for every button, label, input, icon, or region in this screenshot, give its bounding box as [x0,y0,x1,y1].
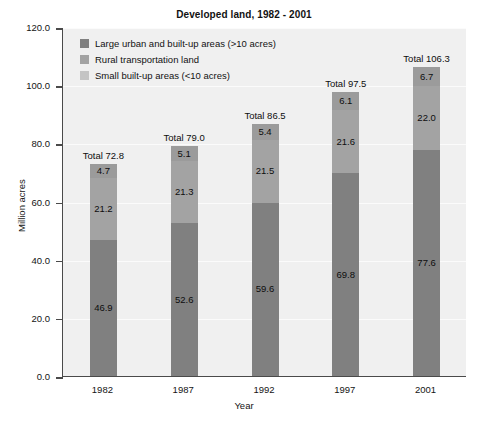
x-axis-tick-label: 1997 [315,384,375,395]
y-axis-tick-label: 80.0 [4,138,50,149]
bar-stack[interactable]: 6.121.669.8Total 97.5 [332,92,359,376]
bar-segment-value-label: 46.9 [90,303,117,313]
bar-segment-value-label: 5.4 [252,128,279,138]
y-axis-tick [56,319,63,321]
y-axis-tick-label: 120.0 [4,22,50,33]
bar-segment-value-label: 21.6 [332,137,359,147]
x-axis-tick-label: 1982 [72,384,132,395]
bar-segment-value-label: 21.2 [90,204,117,214]
bar-segment[interactable]: 21.2 [90,178,117,240]
legend-label-small-built-up: Small built-up areas (<10 acres) [95,70,230,81]
developed-land-stacked-bar-chart: Developed land, 1982 - 2001 Million acre… [0,0,488,426]
bar-segment-value-label: 52.6 [171,295,198,305]
bar-segment[interactable]: 5.1 [171,146,198,161]
legend-swatch-icon-large-urban [80,39,89,48]
bar-segment[interactable]: 69.8 [332,173,359,376]
bar-segment-value-label: 4.7 [90,166,117,176]
bar-segment[interactable]: 59.6 [252,203,279,376]
legend-item-large-urban: Large urban and built-up areas (>10 acre… [80,36,276,51]
bar-total-label: Total 79.0 [138,132,230,143]
y-axis-tick [56,377,63,379]
chart-legend: Large urban and built-up areas (>10 acre… [80,36,276,84]
legend-label-large-urban: Large urban and built-up areas (>10 acre… [95,38,276,49]
bar-segment-value-label: 21.5 [252,167,279,177]
y-axis-tick [56,261,63,263]
bar-segment[interactable]: 5.4 [252,124,279,140]
y-axis-tick [56,203,63,205]
bar-segment[interactable]: 22.0 [413,86,440,150]
bar-stack[interactable]: 4.721.246.9Total 72.8 [90,164,117,376]
y-axis-tick-label: 60.0 [4,197,50,208]
bar-segment[interactable]: 52.6 [171,223,198,376]
y-axis-tick [56,28,63,30]
bar-segment-value-label: 22.0 [413,114,440,124]
x-axis-title: Year [0,400,488,411]
bar-segment-value-label: 77.6 [413,258,440,268]
bar-segment-value-label: 69.8 [332,270,359,280]
bar-segment[interactable]: 21.3 [171,161,198,223]
gridline [63,28,466,29]
bar-segment[interactable]: 21.6 [332,110,359,173]
legend-item-small-built-up: Small built-up areas (<10 acres) [80,68,276,83]
gridline [63,86,466,87]
y-axis-tick [56,144,63,146]
bar-segment[interactable]: 6.1 [332,92,359,110]
bar-segment-value-label: 6.7 [413,72,440,82]
bar-total-label: Total 97.5 [300,78,392,89]
bar-total-label: Total 72.8 [57,150,149,161]
bar-total-label: Total 86.5 [219,110,311,121]
bar-stack[interactable]: 5.121.352.6Total 79.0 [171,146,198,376]
legend-swatch-icon-small-built-up [80,71,89,80]
bar-segment[interactable]: 6.7 [413,67,440,86]
x-axis-tick-label: 2001 [396,384,456,395]
legend-item-rural-transportation: Rural transportation land [80,52,276,67]
bar-segment-value-label: 5.1 [171,149,198,159]
legend-swatch-icon-rural-transportation [80,55,89,64]
chart-title: Developed land, 1982 - 2001 [0,9,488,20]
bar-segment[interactable]: 21.5 [252,140,279,203]
y-axis-tick-label: 40.0 [4,255,50,266]
bar-segment[interactable]: 4.7 [90,164,117,178]
legend-label-rural-transportation: Rural transportation land [95,54,199,65]
bar-stack[interactable]: 5.421.559.6Total 86.5 [252,124,279,376]
x-axis-tick-label: 1992 [234,384,294,395]
bar-segment-value-label: 21.3 [171,187,198,197]
y-axis-tick [56,86,63,88]
bar-segment[interactable]: 77.6 [413,150,440,376]
bar-segment-value-label: 59.6 [252,285,279,295]
bar-stack[interactable]: 6.722.077.6Total 106.3 [413,67,440,376]
y-axis-tick-label: 100.0 [4,80,50,91]
y-axis-tick-label: 0.0 [4,371,50,382]
x-axis-tick-label: 1987 [153,384,213,395]
y-axis-tick-label: 20.0 [4,313,50,324]
bar-total-label: Total 106.3 [381,53,473,64]
bar-segment[interactable]: 46.9 [90,240,117,376]
bar-segment-value-label: 6.1 [332,97,359,107]
